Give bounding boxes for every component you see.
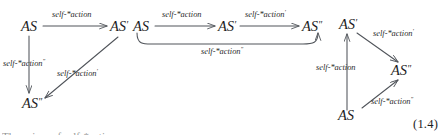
node-left-as-double-prime: AS″ — [21, 95, 43, 111]
node-right-as-prime: AS′ — [338, 16, 358, 32]
commutative-diagrams-svg: AS AS′ AS″ self-*action self-*action″ se… — [0, 0, 444, 135]
diagram-right: AS′ AS″ AS self-*action self-*action′ se… — [316, 16, 415, 123]
node-left-as: AS — [20, 18, 38, 34]
node-mid-as: AS — [132, 18, 150, 34]
edge-label-left-diagonal: self-*action′ — [57, 67, 99, 78]
edge-label-mid-second: self-*action′ — [245, 8, 287, 19]
diagram-middle: AS AS′ AS″ self-*action self-*action′ se… — [132, 8, 323, 56]
diagram-left: AS AS′ AS″ self-*action self-*action″ se… — [3, 10, 129, 111]
edge-label-right-vertical: self-*action — [316, 63, 356, 72]
edge-label-mid-first: self-*action — [162, 10, 202, 19]
node-right-as-double-prime: AS″ — [390, 62, 412, 78]
figure-container: AS AS′ AS″ self-*action self-*action″ se… — [0, 0, 444, 135]
edge-label-right-upper-diagonal: self-*action′ — [373, 27, 415, 38]
edge-label-mid-curve: self-*action″ — [201, 45, 244, 56]
node-right-as: AS — [337, 107, 355, 123]
edge-label-right-lower-diagonal: self-*action″ — [371, 95, 414, 106]
edge-left-as-prime-to-as-double-prime — [45, 37, 118, 98]
equation-number: (1.4) — [413, 117, 438, 132]
node-mid-as-prime: AS′ — [217, 18, 237, 34]
partial-caption-line: The axiom of self-*action — [2, 130, 116, 135]
edge-label-left-top: self-*action — [52, 10, 92, 19]
edge-label-left-vertical: self-*action″ — [3, 57, 46, 68]
node-left-as-prime: AS′ — [109, 18, 129, 34]
node-mid-as-double-prime: AS″ — [301, 18, 323, 34]
edge-mid-curve-as-to-as-double-prime — [137, 33, 318, 44]
